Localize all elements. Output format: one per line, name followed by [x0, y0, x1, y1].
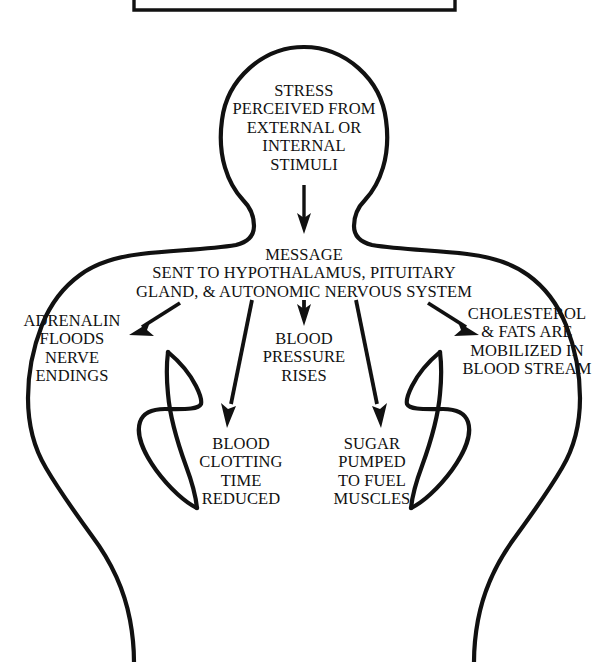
diagram-page: STRESS PERCEIVED FROM EXTERNAL OR INTERN… — [0, 0, 607, 662]
arrow-group — [129, 185, 479, 428]
arrow-message-to-blood-pressure — [297, 300, 311, 326]
node-label-cholesterol-mobilized: CHOLESTEROL & FATS ARE MOBILIZED IN BLOO… — [452, 305, 602, 379]
node-label-blood-clotting-reduced: BLOOD CLOTTING TIME REDUCED — [185, 435, 297, 509]
top-box-border — [134, 0, 455, 10]
node-label-sugar-pumped: SUGAR PUMPED TO FUEL MUSCLES — [318, 435, 426, 509]
node-label-adrenalin-floods: ADRENALIN FLOODS NERVE ENDINGS — [7, 312, 137, 386]
node-label-stress-perceived: STRESS PERCEIVED FROM EXTERNAL OR INTERN… — [218, 82, 390, 174]
arrow-head-to-message — [297, 185, 311, 234]
node-label-blood-pressure-rises: BLOOD PRESSURE RISES — [245, 330, 363, 385]
node-label-message-sent: MESSAGE SENT TO HYPOTHALAMUS, PITUITARY … — [113, 246, 495, 301]
